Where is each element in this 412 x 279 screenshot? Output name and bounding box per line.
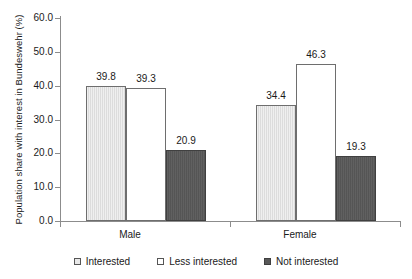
legend-item-interested[interactable]: Interested (74, 256, 130, 267)
x-axis-tick-start (60, 222, 61, 227)
bar-value-label: 46.3 (292, 50, 340, 60)
bar-value-label: 20.9 (162, 136, 210, 146)
bar-value-label: 39.3 (122, 74, 170, 84)
bar[interactable] (166, 150, 206, 221)
legend-item-less-interested[interactable]: Less interested (157, 256, 237, 267)
legend-item-not-interested[interactable]: Not interested (264, 256, 338, 267)
x-axis-tick-end (400, 222, 401, 227)
y-axis-tick-label: 60.0 (1, 13, 53, 23)
bar-value-label: 19.3 (332, 142, 380, 152)
x-category-label-female: Female (260, 229, 340, 240)
chart-legend: Interested Less interested Not intereste… (0, 256, 412, 267)
bar[interactable] (86, 86, 126, 221)
y-axis-tick-label: 30.0 (1, 115, 53, 125)
y-axis-tick-label: 10.0 (1, 182, 53, 192)
y-axis-tick-label: 20.0 (1, 148, 53, 158)
bar[interactable] (296, 64, 336, 221)
y-axis-tick-label: 40.0 (1, 81, 53, 91)
legend-swatch-icon-not-interested (264, 258, 271, 265)
legend-label-less-interested: Less interested (169, 256, 237, 267)
x-category-label-male: Male (90, 229, 170, 240)
bar[interactable] (126, 88, 166, 221)
x-axis-tick-middle (230, 222, 231, 227)
y-axis-tick-label: 0.0 (1, 216, 53, 226)
legend-label-not-interested: Not interested (276, 256, 338, 267)
y-axis-tick-label: 50.0 (1, 47, 53, 57)
bar-value-label: 34.4 (252, 91, 300, 101)
legend-label-interested: Interested (86, 256, 130, 267)
bar[interactable] (256, 105, 296, 221)
bar-chart: Population share with interest in Bundes… (0, 0, 412, 279)
bar[interactable] (336, 156, 376, 221)
legend-swatch-icon-interested (74, 258, 81, 265)
plot-area: 39.839.320.934.446.319.3 (60, 18, 400, 221)
legend-swatch-icon-less-interested (157, 258, 164, 265)
